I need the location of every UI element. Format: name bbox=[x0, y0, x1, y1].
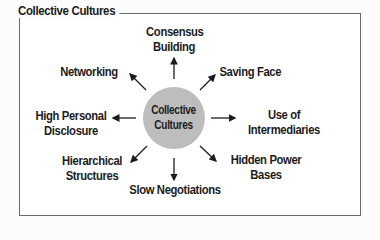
node-line: Building bbox=[146, 40, 202, 55]
arrow-down-left bbox=[131, 146, 147, 162]
node-networking: Networking bbox=[59, 65, 118, 80]
node-hierarchical-structures: Hierarchical Structures bbox=[56, 154, 128, 184]
center-node-collective-cultures: Collective Cultures bbox=[143, 87, 205, 149]
node-line: Hidden Power bbox=[221, 153, 311, 168]
node-line: Consensus bbox=[146, 25, 202, 40]
node-saving-face: Saving Face bbox=[219, 65, 281, 80]
arrow-down-right bbox=[200, 146, 216, 161]
node-line: Structures bbox=[56, 169, 128, 184]
node-line: High Personal bbox=[32, 109, 109, 124]
node-use-of-intermediaries: Use of Intermediaries bbox=[239, 108, 329, 138]
node-hidden-power-bases: Hidden Power Bases bbox=[221, 153, 311, 183]
arrow-up-right bbox=[200, 75, 215, 90]
node-line: Intermediaries bbox=[239, 123, 329, 138]
node-line: Disclosure bbox=[32, 124, 109, 139]
center-line1: Collective bbox=[152, 103, 197, 118]
node-high-personal-disclosure: High Personal Disclosure bbox=[32, 109, 109, 139]
node-line: Bases bbox=[221, 168, 311, 183]
node-line: Slow Negotiations bbox=[126, 183, 225, 198]
node-slow-negotiations: Slow Negotiations bbox=[126, 183, 225, 198]
node-line: Use of bbox=[239, 108, 329, 123]
node-line: Hierarchical bbox=[56, 154, 128, 169]
node-line: Networking bbox=[59, 65, 118, 80]
node-consensus-building: Consensus Building bbox=[146, 25, 202, 55]
arrow-up-left bbox=[130, 74, 146, 90]
center-line2: Cultures bbox=[152, 118, 197, 133]
node-line: Saving Face bbox=[219, 65, 281, 80]
